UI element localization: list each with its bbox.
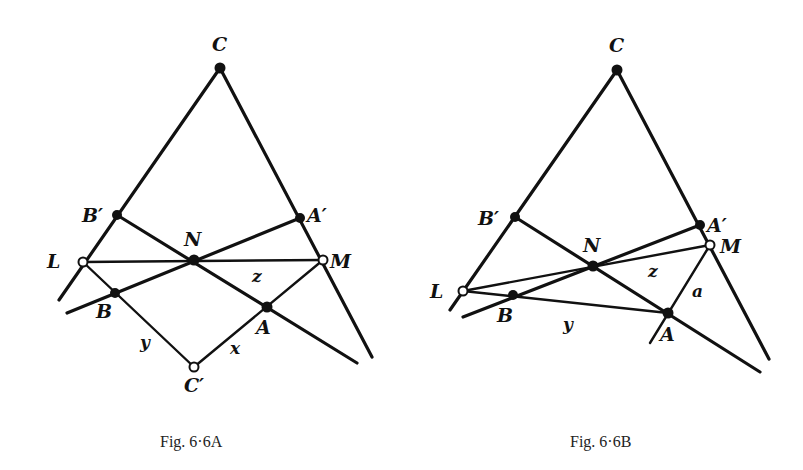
point-b bbox=[110, 288, 120, 298]
label-n: N bbox=[183, 228, 202, 250]
label-a-lowercase: a bbox=[692, 281, 703, 301]
point-n bbox=[189, 255, 200, 266]
label-z: z bbox=[251, 266, 262, 286]
point-c bbox=[612, 65, 623, 76]
label-a: A bbox=[254, 316, 271, 338]
label-b-prime: B′ bbox=[81, 204, 103, 226]
point-c-prime bbox=[190, 363, 199, 372]
point-l bbox=[459, 287, 468, 296]
label-y: y bbox=[139, 332, 151, 352]
point-m bbox=[319, 256, 328, 265]
point-c bbox=[215, 63, 226, 74]
point-a-prime bbox=[295, 213, 305, 223]
label-b-prime: B′ bbox=[477, 207, 499, 229]
point-l bbox=[79, 258, 88, 267]
diagram-canvas: C B′ A′ N L M B A C′ y x z Fig. 6·6A bbox=[0, 0, 803, 470]
line-c-b-prime-l bbox=[450, 70, 617, 310]
figure-6-6B: C B′ A′ M N L B A y z a Fig. 6·6B bbox=[429, 34, 769, 451]
line-l-m bbox=[83, 260, 323, 262]
label-c: C bbox=[609, 34, 624, 56]
label-c-prime: C′ bbox=[184, 374, 204, 396]
label-n: N bbox=[582, 234, 601, 256]
label-b: B bbox=[95, 300, 112, 322]
label-a-prime: A′ bbox=[305, 204, 327, 226]
label-m: M bbox=[329, 250, 352, 272]
point-a-prime bbox=[695, 220, 705, 230]
label-l: L bbox=[46, 250, 60, 272]
point-m bbox=[706, 241, 715, 250]
label-b: B bbox=[496, 304, 513, 326]
point-b-prime bbox=[112, 210, 122, 220]
label-c: C bbox=[212, 33, 227, 55]
point-a bbox=[262, 302, 273, 313]
point-n bbox=[588, 261, 599, 272]
label-x: x bbox=[229, 338, 241, 358]
figure-caption-6-6B: Fig. 6·6B bbox=[570, 433, 631, 451]
line-c-a-prime-m bbox=[220, 68, 372, 357]
label-m: M bbox=[719, 235, 742, 257]
point-b-prime bbox=[510, 212, 520, 222]
figure-caption-6-6A: Fig. 6·6A bbox=[160, 433, 223, 451]
label-y: y bbox=[562, 314, 574, 334]
label-z: z bbox=[647, 261, 658, 281]
label-a-prime: A′ bbox=[705, 214, 727, 236]
figure-6-6A: C B′ A′ N L M B A C′ y x z Fig. 6·6A bbox=[46, 33, 372, 451]
point-b bbox=[508, 290, 518, 300]
point-a bbox=[663, 308, 674, 319]
line-c-a-prime-m bbox=[617, 70, 769, 359]
label-l: L bbox=[429, 280, 443, 302]
label-a: A bbox=[658, 323, 675, 345]
